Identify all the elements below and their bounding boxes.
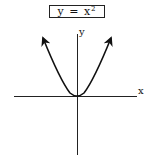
x-axis-label: x [138, 85, 144, 96]
parabola-graph [0, 0, 154, 156]
y-axis-label: y [79, 26, 85, 37]
